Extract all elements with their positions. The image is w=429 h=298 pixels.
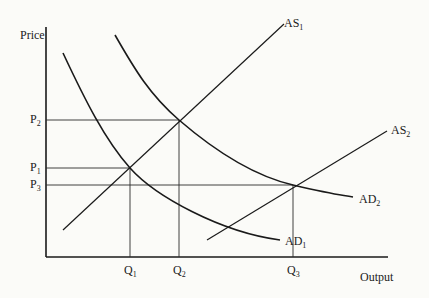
q3-label: Q3 bbox=[287, 264, 300, 279]
ad-as-diagram bbox=[0, 0, 429, 298]
q3-subscript: 3 bbox=[296, 270, 300, 279]
p1-label: P1 bbox=[30, 161, 41, 176]
q1-label: Q1 bbox=[124, 264, 137, 279]
as1-letters: AS bbox=[284, 16, 299, 30]
p2-label: P2 bbox=[30, 113, 41, 128]
q1-letter: Q bbox=[124, 263, 133, 277]
as2-label: AS2 bbox=[391, 124, 410, 139]
ad1-label: AD1 bbox=[285, 235, 306, 250]
ad2-label: AD2 bbox=[359, 193, 380, 208]
p1-subscript: 1 bbox=[37, 167, 41, 176]
q3-letter: Q bbox=[287, 263, 296, 277]
p2-letter: P bbox=[30, 112, 37, 126]
q2-subscript: 2 bbox=[182, 270, 186, 279]
y-axis-label: Price bbox=[20, 29, 45, 41]
as1-subscript: 1 bbox=[299, 23, 303, 32]
p3-subscript: 3 bbox=[37, 184, 41, 193]
ad1-curve bbox=[63, 53, 280, 240]
p1-letter: P bbox=[30, 160, 37, 174]
p3-letter: P bbox=[30, 177, 37, 191]
as2-letters: AS bbox=[391, 123, 406, 137]
q1-subscript: 1 bbox=[133, 270, 137, 279]
ad2-subscript: 2 bbox=[376, 199, 380, 208]
as1-curve bbox=[63, 24, 284, 230]
p3-label: P3 bbox=[30, 178, 41, 193]
ad2-letters: AD bbox=[359, 192, 376, 206]
as1-label: AS1 bbox=[284, 17, 303, 32]
as2-subscript: 2 bbox=[406, 130, 410, 139]
ad1-letters: AD bbox=[285, 234, 302, 248]
x-axis-label: Output bbox=[360, 271, 393, 283]
p2-subscript: 2 bbox=[37, 119, 41, 128]
ad1-subscript: 1 bbox=[302, 241, 306, 250]
q2-letter: Q bbox=[173, 263, 182, 277]
q2-label: Q2 bbox=[173, 264, 186, 279]
